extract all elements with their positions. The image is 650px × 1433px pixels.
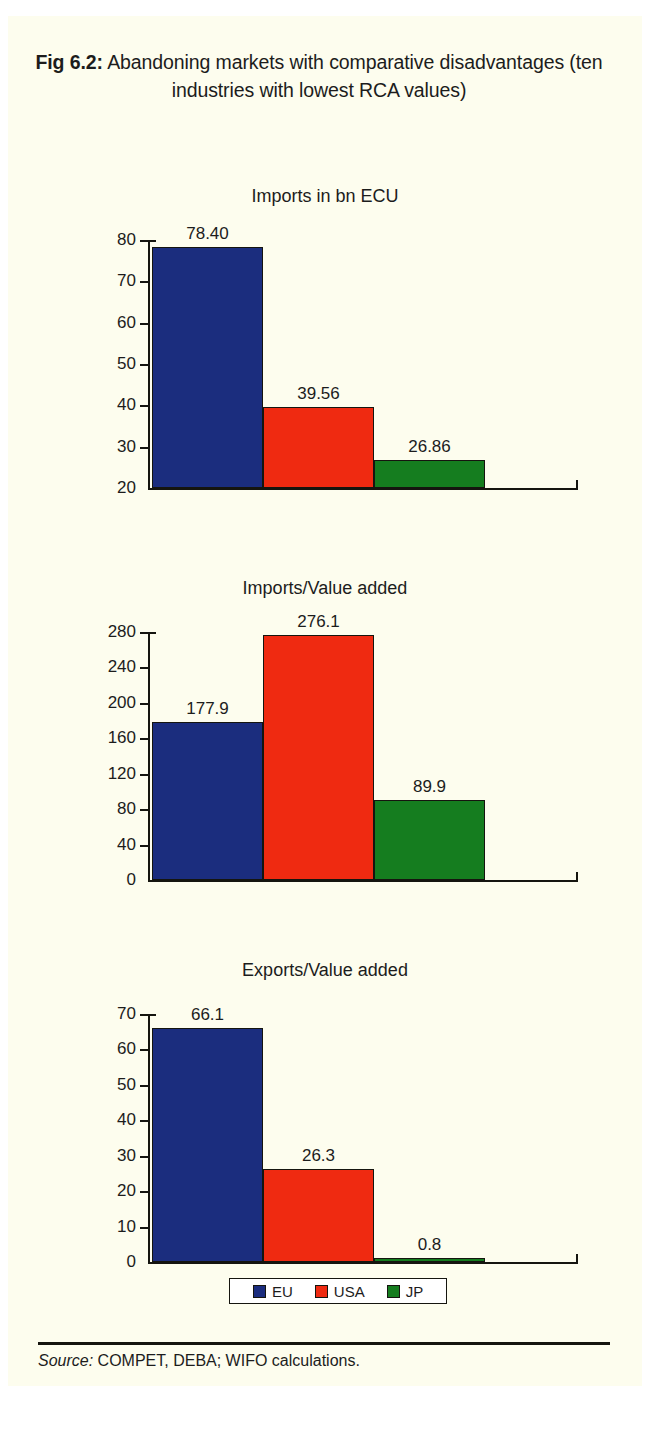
y-axis-tick-label: 160 (82, 728, 136, 748)
chart-2-plot-area: 04080120160200240280177.9276.189.9 (0, 578, 650, 898)
y-axis-tick-label: 50 (82, 1075, 136, 1095)
bar-value-label-eu: 78.40 (152, 224, 263, 244)
bar-usa (263, 407, 374, 488)
y-axis-tick-label: 10 (82, 1217, 136, 1237)
legend-label-eu: EU (272, 1283, 293, 1300)
y-axis-tick-label: 20 (82, 1181, 136, 1201)
legend-swatch-usa (315, 1285, 328, 1298)
bar-value-label-jp: 26.86 (374, 437, 485, 457)
source-text: COMPET, DEBA; WIFO calculations. (93, 1352, 360, 1369)
chart-exports-value-added: Exports/Value added 01020304050607066.12… (0, 960, 650, 1280)
chart-legend: EUUSAJP (229, 1278, 447, 1304)
bar-value-label-eu: 66.1 (152, 1005, 263, 1025)
bar-value-label-usa: 276.1 (263, 612, 374, 632)
y-axis-tick-label: 200 (82, 693, 136, 713)
chart-1-plot-area: 2030405060708078.4039.5626.86 (0, 186, 650, 506)
bar-usa (263, 1169, 374, 1262)
legend-label-usa: USA (334, 1283, 365, 1300)
figure-title-text: Abandoning markets with comparative disa… (103, 51, 603, 101)
y-axis-tick (140, 845, 148, 847)
y-axis-tick (140, 364, 148, 366)
y-axis-tick (140, 632, 148, 634)
y-axis-tick (140, 1085, 148, 1087)
y-axis-tick (140, 774, 148, 776)
x-axis-line (148, 488, 578, 490)
y-axis-line (148, 240, 150, 490)
y-axis-tick (140, 667, 148, 669)
y-axis-tick-label: 70 (82, 1004, 136, 1024)
y-axis-tick (140, 281, 148, 283)
y-axis-tick-label: 0 (82, 870, 136, 890)
y-axis-tick (140, 1014, 148, 1016)
source-label: Source: (38, 1352, 93, 1369)
y-axis-tick-label: 60 (82, 313, 136, 333)
chart-imports-value-added: Imports/Value added 04080120160200240280… (0, 578, 650, 898)
y-axis-tick-label: 60 (82, 1039, 136, 1059)
bar-value-label-jp: 89.9 (374, 777, 485, 797)
y-axis-tick (140, 447, 148, 449)
source-line: Source: COMPET, DEBA; WIFO calculations. (38, 1352, 360, 1370)
y-axis-tick (140, 1120, 148, 1122)
bar-jp (374, 460, 485, 488)
chart-3-plot-area: 01020304050607066.126.30.8 (0, 960, 650, 1280)
figure-title: Fig 6.2: Abandoning markets with compara… (30, 48, 608, 104)
legend-item-jp: JP (387, 1283, 424, 1300)
y-axis-tick (140, 738, 148, 740)
y-axis-tick (140, 1191, 148, 1193)
x-axis-right-cap (576, 1254, 578, 1262)
x-axis-line (148, 880, 578, 882)
y-axis-line (148, 1014, 150, 1264)
y-axis-tick-label: 40 (82, 395, 136, 415)
chart-imports-bn-ecu: Imports in bn ECU 2030405060708078.4039.… (0, 186, 650, 506)
footer-divider (38, 1342, 610, 1345)
y-axis-tick-label: 70 (82, 271, 136, 291)
y-axis-tick (140, 1227, 148, 1229)
x-axis-line (148, 1262, 578, 1264)
y-axis-tick (140, 1156, 148, 1158)
legend-swatch-eu (253, 1285, 266, 1298)
bar-value-label-jp: 0.8 (374, 1235, 485, 1255)
bar-usa (263, 635, 374, 880)
y-axis-tick-label: 280 (82, 622, 136, 642)
y-axis-tick (140, 240, 148, 242)
x-axis-right-cap (576, 872, 578, 880)
y-axis-tick (140, 809, 148, 811)
legend-item-usa: USA (315, 1283, 365, 1300)
bar-jp (374, 800, 485, 880)
y-axis-top-cap (148, 632, 156, 634)
y-axis-tick-label: 0 (82, 1252, 136, 1272)
legend-swatch-jp (387, 1285, 400, 1298)
y-axis-tick (140, 703, 148, 705)
y-axis-tick-label: 240 (82, 657, 136, 677)
bar-value-label-usa: 26.3 (263, 1146, 374, 1166)
bar-value-label-usa: 39.56 (263, 384, 374, 404)
y-axis-line (148, 632, 150, 882)
y-axis-tick (140, 323, 148, 325)
bar-jp (374, 1258, 485, 1262)
y-axis-tick (140, 405, 148, 407)
legend-item-eu: EU (253, 1283, 293, 1300)
bar-value-label-eu: 177.9 (152, 699, 263, 719)
x-axis-right-cap (576, 480, 578, 488)
y-axis-tick-label: 30 (82, 1146, 136, 1166)
y-axis-tick-label: 40 (82, 835, 136, 855)
y-axis-tick-label: 30 (82, 437, 136, 457)
y-axis-tick-label: 40 (82, 1110, 136, 1130)
bar-eu (152, 722, 263, 880)
bar-eu (152, 1028, 263, 1262)
bar-eu (152, 247, 263, 488)
figure-number: Fig 6.2: (35, 51, 102, 73)
y-axis-tick (140, 1049, 148, 1051)
y-axis-tick-label: 80 (82, 799, 136, 819)
y-axis-tick-label: 80 (82, 230, 136, 250)
figure-page: Fig 6.2: Abandoning markets with compara… (0, 0, 650, 1433)
y-axis-tick-label: 50 (82, 354, 136, 374)
legend-label-jp: JP (406, 1283, 424, 1300)
y-axis-tick-label: 120 (82, 764, 136, 784)
y-axis-tick-label: 20 (82, 478, 136, 498)
